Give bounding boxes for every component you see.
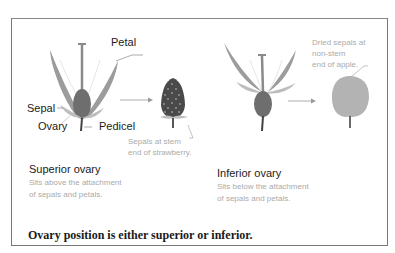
inferior-ovary-flower-icon: [224, 43, 296, 131]
strawberry-note: Sepals at stem end of strawberry.: [128, 136, 191, 158]
superior-ovary-title: Superior ovary: [29, 164, 101, 175]
apple-note: Dried sepals at non-stem end of apple.: [312, 37, 365, 70]
apple-icon: [332, 66, 369, 128]
figure-caption: Ovary position is either superior or inf…: [28, 228, 253, 243]
arrow-right-icon: [288, 99, 316, 104]
arrow-right-icon: [120, 98, 153, 103]
strawberry-icon: [160, 78, 193, 138]
sepal-label: Sepal: [27, 103, 55, 114]
pedicel-label: Pedicel: [99, 121, 135, 132]
superior-ovary-description: Sits above the attachment of sepals and …: [29, 177, 122, 201]
inferior-ovary-description: Sits below the attachment of sepals and …: [217, 181, 309, 205]
ovary-label: Ovary: [38, 121, 67, 132]
superior-ovary-flower-icon: [50, 44, 143, 131]
petal-label: Petal: [111, 37, 136, 48]
inferior-ovary-title: Inferior ovary: [217, 168, 281, 179]
